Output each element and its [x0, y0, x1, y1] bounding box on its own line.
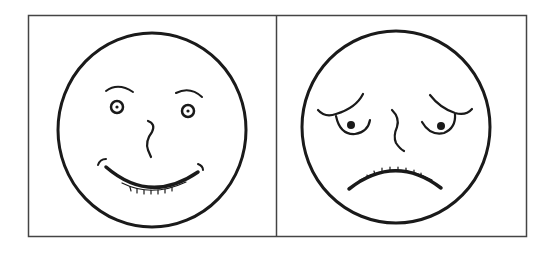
happy-left-cheek	[98, 159, 106, 165]
sad-nose	[392, 110, 404, 151]
happy-left-eyebrow	[106, 87, 133, 92]
sad-mouth	[349, 171, 441, 189]
happy-nose	[147, 121, 153, 157]
faces-figure	[0, 0, 544, 253]
sad-right-eyebrow	[430, 95, 472, 114]
happy-mouth	[106, 167, 198, 187]
happy-face	[58, 33, 246, 227]
happy-right-cheek	[198, 164, 203, 170]
sad-left-eyebrow	[318, 94, 363, 115]
sad-face	[302, 31, 490, 223]
sad-right-pupil	[437, 122, 445, 130]
sad-left-pupil	[347, 121, 355, 129]
happy-right-eyebrow	[176, 90, 202, 97]
